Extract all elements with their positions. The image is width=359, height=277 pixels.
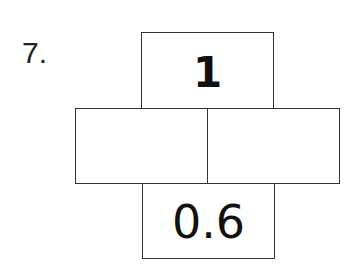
question-number: 7. xyxy=(22,36,47,70)
given-part-value: 0.6 xyxy=(172,199,245,245)
part-box-right[interactable] xyxy=(207,108,340,184)
given-part-box: 0.6 xyxy=(142,183,275,259)
part-box-left[interactable] xyxy=(75,108,208,184)
whole-value: 1 xyxy=(193,52,222,94)
whole-box: 1 xyxy=(141,32,274,109)
